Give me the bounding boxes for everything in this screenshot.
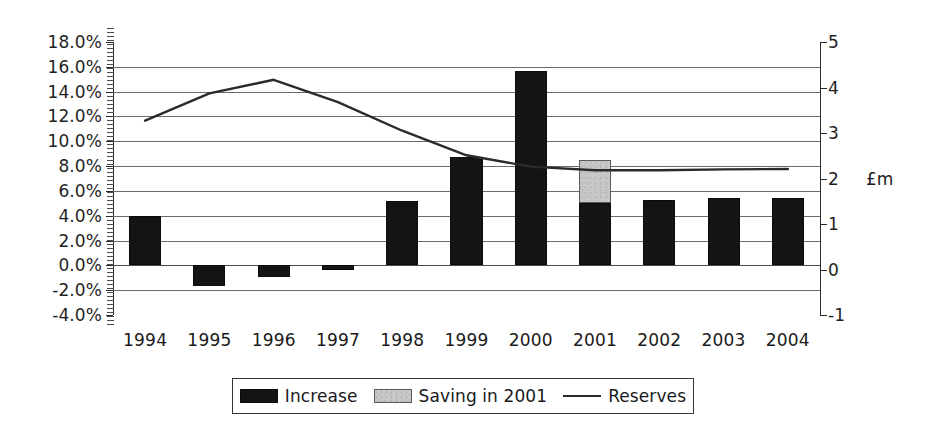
chart-legend: Increase Saving in 2001 Reserves xyxy=(232,378,694,414)
y-axis-left-minor-tick xyxy=(107,324,114,325)
y-axis-right-tick xyxy=(820,179,827,180)
bar-group xyxy=(370,42,434,315)
y-axis-right-tick-label: 1 xyxy=(828,214,839,234)
bar-increase[interactable] xyxy=(193,265,225,286)
y-axis-right-tick-label: 2 xyxy=(828,169,839,189)
y-axis-left-minor-tick xyxy=(107,32,114,33)
y-axis-right-labels: 543210-1 xyxy=(828,0,868,447)
line-swatch-icon xyxy=(563,395,601,397)
bar-increase[interactable] xyxy=(129,216,161,266)
bar-increase[interactable] xyxy=(258,265,290,276)
x-axis-tick-label: 2004 xyxy=(766,330,810,350)
x-axis-tick-label: 2002 xyxy=(637,330,681,350)
bar-group xyxy=(113,42,177,315)
bar-increase[interactable] xyxy=(579,203,611,265)
bar-increase[interactable] xyxy=(450,157,482,265)
y-axis-right-tick xyxy=(820,88,827,89)
x-axis-tick-label: 2001 xyxy=(573,330,617,350)
bar-increase[interactable] xyxy=(772,198,804,265)
y-axis-left-tick-label: 10.0% xyxy=(47,131,102,151)
y-axis-right-tick xyxy=(820,133,827,134)
y-axis-left-tick-label: 14.0% xyxy=(47,82,102,102)
y-axis-left-tick-label: 0.0% xyxy=(58,255,102,275)
y-axis-right-tick-label: 4 xyxy=(828,78,839,98)
bar-group xyxy=(177,42,241,315)
bar-group xyxy=(499,42,563,315)
black-swatch-icon xyxy=(240,389,278,403)
y-axis-left-minor-tick xyxy=(107,40,114,41)
bar-increase[interactable] xyxy=(515,71,547,266)
x-axis-tick-label: 2000 xyxy=(509,330,553,350)
legend-item-reserves: Reserves xyxy=(563,386,686,406)
y-axis-left-tick xyxy=(106,241,113,242)
y-axis-left-tick xyxy=(106,191,113,192)
y-axis-left-minor-tick xyxy=(107,316,114,317)
gray-swatch-icon xyxy=(374,389,412,403)
chart-container: 18.0%16.0%14.0%12.0%10.0%8.0%6.0%4.0%2.0… xyxy=(0,0,927,447)
y-axis-right-tick-label: -1 xyxy=(828,305,845,325)
bar-group xyxy=(563,42,627,315)
plot-area xyxy=(113,42,820,315)
bar-group xyxy=(756,42,820,315)
y-axis-left-tick-label: 8.0% xyxy=(58,156,102,176)
y-axis-right-tick-label: 3 xyxy=(828,123,839,143)
y-axis-left-tick xyxy=(106,166,113,167)
y-axis-left-tick-label: 2.0% xyxy=(58,231,102,251)
y-axis-left-tick xyxy=(106,67,113,68)
x-axis-tick-label: 1995 xyxy=(187,330,231,350)
y-axis-right-unit-label: £m xyxy=(866,169,893,189)
x-axis-tick-label: 2003 xyxy=(702,330,746,350)
y-axis-right-tick-label: 5 xyxy=(828,32,839,52)
x-axis-tick-label: 1994 xyxy=(123,330,167,350)
bar-group xyxy=(242,42,306,315)
legend-label-increase: Increase xyxy=(285,386,358,406)
bar-increase[interactable] xyxy=(708,198,740,265)
y-axis-left-tick-label: -4.0% xyxy=(52,305,102,325)
legend-item-saving-in-2001: Saving in 2001 xyxy=(374,386,548,406)
x-axis-tick-label: 1996 xyxy=(252,330,296,350)
x-axis-tick-label: 1997 xyxy=(316,330,360,350)
bar-saving-in-2001[interactable] xyxy=(579,160,611,203)
y-axis-right-tick-label: 0 xyxy=(828,260,839,280)
y-axis-left-tick-label: 16.0% xyxy=(47,57,102,77)
y-axis-left-tick-label: 6.0% xyxy=(58,181,102,201)
y-axis-left-tick xyxy=(106,315,113,316)
y-axis-left-tick xyxy=(106,141,113,142)
y-axis-right-tick xyxy=(820,224,827,225)
bar-group xyxy=(691,42,755,315)
y-axis-left-tick xyxy=(106,265,113,266)
y-axis-left-minor-tick xyxy=(107,28,114,29)
y-axis-right-tick xyxy=(820,42,827,43)
y-axis-right-tick xyxy=(820,315,827,316)
legend-label-saving-in-2001: Saving in 2001 xyxy=(419,386,548,406)
y-axis-right-tick xyxy=(820,270,827,271)
y-axis-left-tick-label: 18.0% xyxy=(47,32,102,52)
y-axis-left-tick xyxy=(106,92,113,93)
legend-label-reserves: Reserves xyxy=(608,386,686,406)
y-axis-left-tick xyxy=(106,216,113,217)
bar-increase[interactable] xyxy=(643,200,675,266)
y-axis-left-tick-label: 12.0% xyxy=(47,106,102,126)
y-axis-left-tick xyxy=(106,290,113,291)
y-axis-left-minor-tick xyxy=(107,36,114,37)
x-axis-tick-label: 1999 xyxy=(444,330,488,350)
x-axis-tick-label: 1998 xyxy=(380,330,424,350)
y-axis-left-tick xyxy=(106,42,113,43)
bar-increase[interactable] xyxy=(386,201,418,266)
x-axis-labels: 1994199519961997199819992000200120022003… xyxy=(113,330,820,356)
bar-group xyxy=(306,42,370,315)
y-axis-left-labels: 18.0%16.0%14.0%12.0%10.0%8.0%6.0%4.0%2.0… xyxy=(10,0,102,447)
y-axis-left-tick-label: 4.0% xyxy=(58,206,102,226)
bar-group xyxy=(627,42,691,315)
bar-group xyxy=(434,42,498,315)
legend-item-increase: Increase xyxy=(240,386,358,406)
bar-increase[interactable] xyxy=(322,265,354,270)
y-axis-left-minor-tick xyxy=(107,320,114,321)
y-axis-left-tick xyxy=(106,116,113,117)
y-axis-left-tick-label: -2.0% xyxy=(52,280,102,300)
